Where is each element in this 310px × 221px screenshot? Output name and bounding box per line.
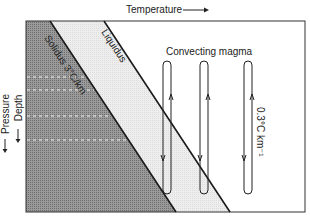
- convection-loop-3: [244, 61, 252, 194]
- convecting-magma-label: Convecting magma: [166, 46, 253, 57]
- arrow-down-icon: [3, 139, 8, 153]
- gradient-label: 0.3°C km⁻¹: [255, 107, 266, 157]
- y-axis-depth-label: Depth: [13, 95, 24, 122]
- x-axis-label: Temperature: [126, 4, 183, 15]
- y-axis-pressure-label: Pressure: [0, 94, 11, 134]
- arrow-right-icon: [183, 8, 209, 13]
- magma-phase-diagram: Solidus 3°C/km Liquidus Convecting magma…: [0, 0, 310, 221]
- arrow-down-icon: [16, 129, 21, 143]
